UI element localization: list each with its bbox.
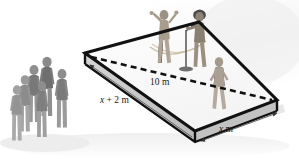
diagonal-length-label: 10 m <box>150 77 169 87</box>
bottom-edge-length-label: x m <box>219 124 233 134</box>
audience-group <box>10 57 68 141</box>
audience-person-6 <box>55 69 69 128</box>
left-edge-length-label: x + 2 m <box>100 95 129 105</box>
stage-illustration: 10 m x + 2 m x m <box>0 0 299 159</box>
